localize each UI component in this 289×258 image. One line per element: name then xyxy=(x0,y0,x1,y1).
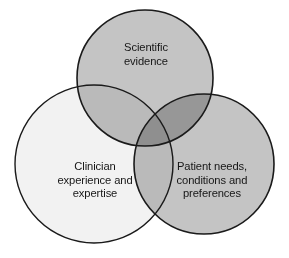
venn-diagram-svg xyxy=(0,0,289,258)
venn-diagram: Scientific evidence Clinician experience… xyxy=(0,0,289,258)
